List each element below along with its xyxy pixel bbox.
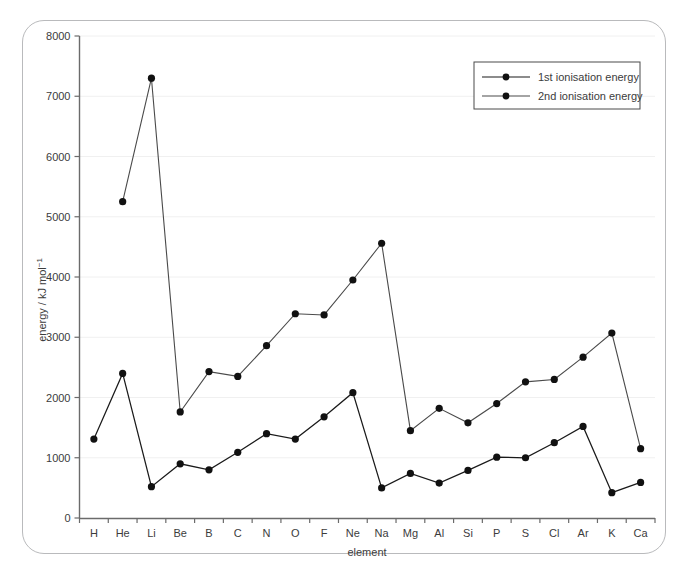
data-point: [177, 460, 184, 467]
data-point: [637, 445, 644, 452]
data-point: [205, 368, 212, 375]
x-tick-label-f: F: [321, 527, 328, 539]
data-point: [551, 376, 558, 383]
x-tick-label-h: H: [90, 527, 98, 539]
x-tick-label-li: Li: [147, 527, 156, 539]
x-tick-label-n: N: [263, 527, 271, 539]
y-tick-label: 4000: [46, 271, 70, 283]
data-point: [407, 470, 414, 477]
x-tick-label-he: He: [116, 527, 130, 539]
x-tick-label-ne: Ne: [346, 527, 360, 539]
legend-label: 2nd ionisation energy: [538, 90, 643, 102]
data-point: [522, 454, 529, 461]
data-point: [464, 467, 471, 474]
legend-marker: [503, 74, 510, 81]
data-series-group: [90, 75, 644, 497]
y-tick-label: 7000: [46, 90, 70, 102]
y-tick-label: 5000: [46, 211, 70, 223]
x-tick-label-mg: Mg: [403, 527, 418, 539]
x-axis-title: element: [347, 546, 386, 558]
series-1: [90, 370, 644, 496]
data-point: [349, 389, 356, 396]
legend: 1st ionisation energy2nd ionisation ener…: [474, 62, 643, 109]
data-point: [263, 430, 270, 437]
data-point: [493, 400, 500, 407]
data-point: [579, 423, 586, 430]
data-point: [292, 310, 299, 317]
data-point: [119, 370, 126, 377]
data-point: [205, 466, 212, 473]
y-axis-title: energy / kJ mol−1: [35, 258, 49, 342]
data-point: [234, 373, 241, 380]
series-2: [119, 75, 644, 453]
data-point: [148, 483, 155, 490]
y-axis-ticks-group: [75, 36, 80, 518]
x-tick-label-al: Al: [434, 527, 444, 539]
data-point: [320, 413, 327, 420]
y-tick-label: 3000: [46, 331, 70, 343]
legend-label: 1st ionisation energy: [538, 71, 639, 83]
x-tick-label-ca: Ca: [634, 527, 649, 539]
x-tick-label-si: Si: [463, 527, 473, 539]
data-point: [493, 454, 500, 461]
x-tick-label-be: Be: [173, 527, 186, 539]
x-tick-label-na: Na: [375, 527, 390, 539]
x-tick-label-cl: Cl: [549, 527, 559, 539]
data-point: [292, 435, 299, 442]
data-point: [177, 408, 184, 415]
data-point: [119, 198, 126, 205]
data-point: [90, 435, 97, 442]
data-point: [436, 479, 443, 486]
data-point: [522, 378, 529, 385]
x-tick-label-p: P: [493, 527, 500, 539]
data-point: [637, 479, 644, 486]
y-tick-label: 8000: [46, 30, 70, 42]
x-tick-label-o: O: [291, 527, 300, 539]
x-tick-label-c: C: [234, 527, 242, 539]
series-line: [123, 78, 641, 449]
series-line: [94, 373, 641, 492]
data-point: [349, 276, 356, 283]
data-point: [551, 439, 558, 446]
data-point: [148, 75, 155, 82]
x-axis-tick-labels: HHeLiBeBCNOFNeNaMgAlSiPSClArKCa: [90, 527, 649, 539]
data-point: [608, 489, 615, 496]
data-point: [378, 484, 385, 491]
data-point: [320, 311, 327, 318]
data-point: [464, 419, 471, 426]
x-tick-label-ar: Ar: [578, 527, 589, 539]
y-axis-tick-labels: 010002000300040005000600070008000: [46, 30, 70, 524]
data-point: [579, 354, 586, 361]
x-tick-label-k: K: [608, 527, 616, 539]
ionisation-energy-chart: 010002000300040005000600070008000 HHeLiB…: [0, 0, 688, 574]
data-point: [436, 405, 443, 412]
data-point: [263, 342, 270, 349]
data-point: [407, 427, 414, 434]
data-point: [378, 240, 385, 247]
y-tick-label: 2000: [46, 392, 70, 404]
y-tick-label: 0: [64, 512, 70, 524]
y-axis-title-text: energy / kJ mol−1: [35, 258, 49, 342]
data-point: [234, 449, 241, 456]
y-tick-label: 6000: [46, 151, 70, 163]
legend-marker: [503, 93, 510, 100]
x-tick-label-s: S: [522, 527, 529, 539]
data-point: [608, 329, 615, 336]
y-tick-label: 1000: [46, 452, 70, 464]
x-tick-label-b: B: [205, 527, 212, 539]
